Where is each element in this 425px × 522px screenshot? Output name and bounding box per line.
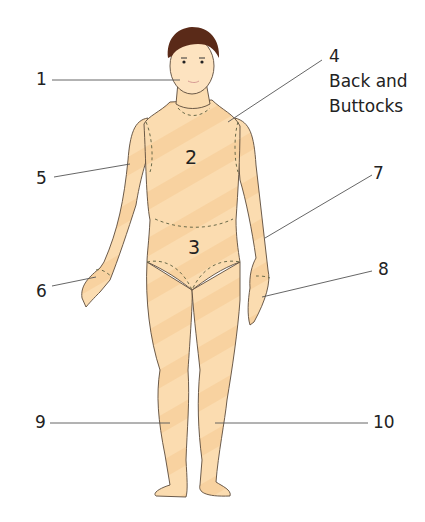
callout-label-10: 10 <box>373 414 395 431</box>
left-eye <box>182 60 185 63</box>
body-diagram: 2 3 1 4 Back and Buttocks 5 6 7 8 9 10 <box>0 0 425 522</box>
callout-label-5: 5 <box>36 170 47 187</box>
callout-label-8: 8 <box>378 261 389 278</box>
leader-line-5 <box>54 164 130 177</box>
callout-label-7: 7 <box>373 165 384 182</box>
callout-4-line3: Buttocks <box>329 94 408 119</box>
leader-line-8 <box>262 271 372 297</box>
callout-4-line2: Back and <box>329 69 408 94</box>
leader-line-7 <box>265 175 372 238</box>
callout-label-4: 4 Back and Buttocks <box>329 44 408 119</box>
right-eye <box>200 60 203 63</box>
region-label-2: 2 <box>185 148 197 167</box>
callout-label-1: 1 <box>36 71 47 88</box>
callout-4-number: 4 <box>329 44 408 69</box>
callout-label-9: 9 <box>35 414 46 431</box>
callout-label-6: 6 <box>36 283 47 300</box>
leader-line-4 <box>228 60 322 122</box>
legs <box>147 262 240 497</box>
region-label-3: 3 <box>188 238 200 257</box>
